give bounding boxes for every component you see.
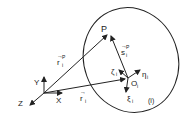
label-zeta-i: ζ i bbox=[111, 67, 117, 77]
label-O-i: O i bbox=[131, 79, 138, 89]
xi-axis-arrow bbox=[126, 78, 128, 92]
svg-text:→: → bbox=[80, 89, 86, 95]
svg-text:r: r bbox=[57, 58, 60, 67]
label-s-i-P: s → i P bbox=[121, 43, 130, 58]
label-xi-i: ξ i bbox=[127, 94, 133, 104]
svg-text:s: s bbox=[121, 48, 125, 57]
svg-text:η: η bbox=[142, 70, 146, 79]
label-P: P bbox=[101, 24, 107, 34]
svg-text:i: i bbox=[116, 71, 117, 77]
svg-text:P: P bbox=[62, 54, 66, 60]
svg-text:i: i bbox=[147, 74, 148, 80]
svg-text:i: i bbox=[62, 62, 63, 68]
label-body-i: (i) bbox=[148, 97, 154, 105]
vector-r-i-P bbox=[44, 35, 107, 93]
label-Z: Z bbox=[18, 99, 23, 108]
svg-text:P: P bbox=[126, 44, 130, 50]
svg-text:ξ: ξ bbox=[127, 94, 131, 103]
label-Y: Y bbox=[34, 78, 40, 87]
eta-axis-arrow bbox=[128, 70, 140, 78]
label-eta-i: η i bbox=[142, 70, 148, 80]
multibody-kinematics-diagram: P Y X Z r → i P r → i s → i P ζ i η i O … bbox=[0, 0, 186, 118]
svg-text:r: r bbox=[80, 94, 83, 103]
svg-text:i: i bbox=[85, 98, 86, 104]
svg-text:i: i bbox=[132, 98, 133, 104]
label-r-i-P: r → i P bbox=[57, 53, 66, 68]
svg-text:i: i bbox=[137, 83, 138, 89]
svg-text:i: i bbox=[126, 52, 127, 58]
z-axis-arrow bbox=[30, 93, 44, 105]
svg-text:ζ: ζ bbox=[111, 67, 115, 76]
label-r-i: r → i bbox=[80, 89, 86, 104]
label-X: X bbox=[56, 96, 62, 105]
